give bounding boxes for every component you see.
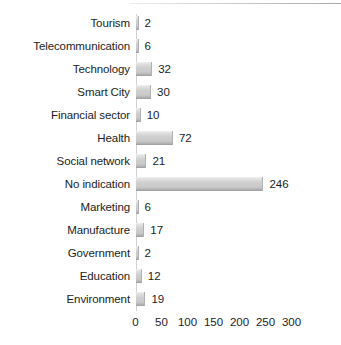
category-label: Smart City <box>0 81 130 104</box>
bar <box>136 292 146 306</box>
bar-value-label: 12 <box>148 265 161 288</box>
bar-row: Education12 <box>0 265 341 288</box>
bar-value-label: 6 <box>145 196 151 219</box>
x-axis-tick-labels: 050100150200250300 <box>0 313 341 331</box>
x-tick-label: 0 <box>132 313 138 331</box>
x-tick-label: 250 <box>256 313 275 331</box>
category-label: Government <box>0 242 130 265</box>
bar-chart: Tourism2Telecommunication6Technology32Sm… <box>0 0 341 345</box>
bar-row: Tourism2 <box>0 12 341 35</box>
category-label: Health <box>0 127 130 150</box>
x-tick-label: 200 <box>230 313 249 331</box>
category-label: Social network <box>0 150 130 173</box>
bar-value-label: 246 <box>269 173 288 196</box>
bar-row: Manufacture17 <box>0 219 341 242</box>
bar-row: Environment19 <box>0 288 341 311</box>
bar-row: Technology32 <box>0 58 341 81</box>
x-tick-label: 150 <box>204 313 223 331</box>
category-label: Technology <box>0 58 130 81</box>
bar-value-label: 30 <box>157 81 170 104</box>
category-label: Telecommunication <box>0 35 130 58</box>
category-label: Financial sector <box>0 104 130 127</box>
bar <box>136 131 173 145</box>
bar <box>136 108 141 122</box>
bar-row: Health72 <box>0 127 341 150</box>
bar <box>136 62 153 76</box>
bar-row: No indication246 <box>0 173 341 196</box>
bar-row: Government2 <box>0 242 341 265</box>
bar-value-label: 2 <box>145 242 151 265</box>
plot-area: Tourism2Telecommunication6Technology32Sm… <box>0 0 341 345</box>
bar <box>136 177 264 191</box>
x-tick-label: 100 <box>178 313 197 331</box>
bar <box>136 223 145 237</box>
category-label: Tourism <box>0 12 130 35</box>
bar-value-label: 21 <box>152 150 165 173</box>
bar <box>136 246 139 260</box>
bar <box>136 154 147 168</box>
category-label: No indication <box>0 173 130 196</box>
bar <box>136 200 139 214</box>
bar <box>136 16 139 30</box>
bar-row: Marketing6 <box>0 196 341 219</box>
bar <box>136 39 139 53</box>
category-label: Manufacture <box>0 219 130 242</box>
bar-row: Financial sector10 <box>0 104 341 127</box>
category-label: Education <box>0 265 130 288</box>
category-label: Environment <box>0 288 130 311</box>
bar-row: Smart City30 <box>0 81 341 104</box>
bar-value-label: 10 <box>147 104 160 127</box>
bar <box>136 269 142 283</box>
bar-value-label: 2 <box>145 12 151 35</box>
x-tick-label: 300 <box>282 313 301 331</box>
bar-row: Telecommunication6 <box>0 35 341 58</box>
bar-value-label: 72 <box>179 127 192 150</box>
bar-value-label: 19 <box>151 288 164 311</box>
bar-value-label: 6 <box>145 35 151 58</box>
bar <box>136 85 152 99</box>
bar-row: Social network21 <box>0 150 341 173</box>
x-tick-label: 50 <box>155 313 168 331</box>
category-label: Marketing <box>0 196 130 219</box>
bar-value-label: 17 <box>150 219 163 242</box>
bar-value-label: 32 <box>158 58 171 81</box>
